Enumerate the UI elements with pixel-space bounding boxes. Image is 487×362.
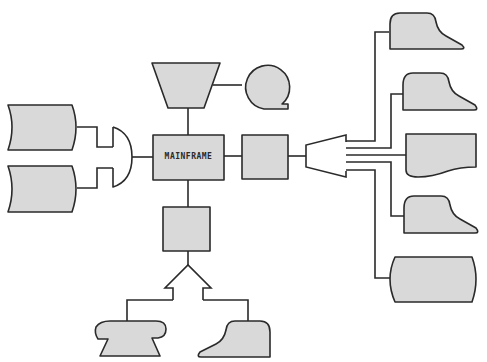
disk1-to-mux-line — [77, 127, 113, 147]
disk-storage-2-shape[interactable] — [8, 166, 76, 212]
manual-input-shape[interactable] — [152, 63, 220, 108]
splitter-to-telephone-line — [127, 300, 173, 321]
fan-out-multiplexer-shape[interactable] — [306, 135, 346, 177]
telephone-shape[interactable] — [95, 321, 166, 356]
fanout-to-display-line — [346, 170, 390, 278]
splitter-shape[interactable] — [165, 265, 211, 300]
document-printer-shape[interactable] — [406, 134, 476, 177]
disk2-to-mux-line — [77, 168, 113, 188]
communication-controller-box[interactable] — [242, 135, 288, 179]
fanout-to-terminal-1-line — [346, 32, 389, 141]
system-diagram: MAINFRAME — [0, 0, 487, 362]
splitter-to-terminal-4-line — [203, 300, 248, 322]
terminal-3-shape[interactable] — [404, 196, 478, 233]
terminal-4-shape[interactable] — [198, 321, 270, 357]
terminal-1-shape[interactable] — [390, 13, 464, 49]
magnetic-tape-shape[interactable] — [246, 65, 290, 109]
display-shape[interactable] — [390, 257, 476, 302]
multiplexer-left-shape[interactable] — [113, 127, 132, 187]
terminal-2-shape[interactable] — [403, 73, 477, 110]
disk-storage-1-shape[interactable] — [8, 105, 76, 150]
mainframe-label: MAINFRAME — [165, 152, 213, 161]
remote-controller-box[interactable] — [163, 207, 210, 251]
